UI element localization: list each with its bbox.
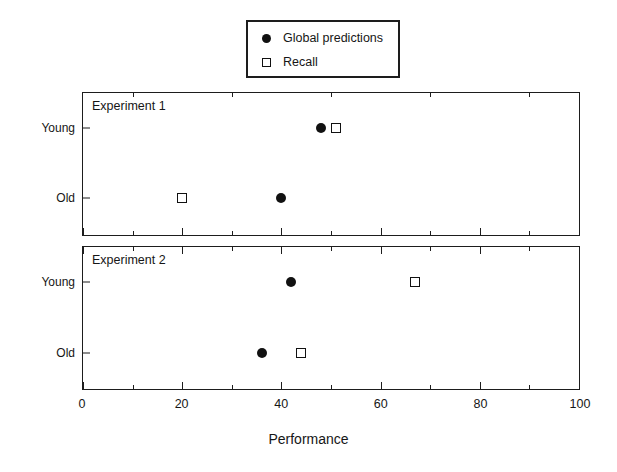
legend-label: Global predictions <box>283 32 383 45</box>
filled-circle-icon <box>258 34 274 43</box>
x-axis-title: Performance <box>0 432 617 446</box>
x-tick-top <box>480 382 481 389</box>
x-tick-bottom <box>381 247 382 254</box>
x-tick-top <box>480 228 481 235</box>
x-tick-top <box>83 382 84 389</box>
x-tick-bottom <box>281 247 282 254</box>
x-tick-top <box>430 231 431 235</box>
x-tick-bottom <box>182 247 183 254</box>
x-tick-bottom <box>331 247 332 251</box>
x-tick-top <box>331 231 332 235</box>
x-tick-top <box>281 228 282 235</box>
data-point-global-predictions-old <box>276 193 286 203</box>
data-point-recall-young <box>410 277 420 287</box>
panel-experiment-1: Experiment 1 Young Old <box>82 92 580 236</box>
x-tick-top <box>83 228 84 235</box>
x-tick-bottom <box>232 93 233 97</box>
x-tick-top <box>381 228 382 235</box>
x-tick-top <box>232 385 233 389</box>
x-tick-label: 20 <box>175 398 189 411</box>
x-tick-top <box>133 385 134 389</box>
x-tick-top <box>331 385 332 389</box>
panel-title: Experiment 2 <box>92 254 166 267</box>
x-tick-top <box>232 231 233 235</box>
x-tick-bottom <box>430 247 431 251</box>
x-tick-bottom <box>331 93 332 97</box>
y-tick-label-old: Old <box>56 347 75 359</box>
legend: Global predictions Recall <box>246 20 400 78</box>
x-tick-bottom <box>579 247 580 254</box>
data-point-recall-old <box>296 348 306 358</box>
x-tick-top <box>182 228 183 235</box>
y-tick-mark-old <box>83 353 90 354</box>
x-tick-top <box>529 231 530 235</box>
legend-item-recall: Recall <box>258 52 318 72</box>
x-tick-label: 40 <box>274 398 288 411</box>
x-tick-top <box>133 231 134 235</box>
data-point-global-predictions-old <box>257 348 267 358</box>
legend-label: Recall <box>283 56 318 69</box>
performance-scatter-figure: Global predictions Recall Experiment 1 Y… <box>0 0 617 472</box>
x-tick-bottom <box>529 93 530 97</box>
panel-experiment-2: Experiment 2 Young Old <box>82 246 580 390</box>
x-tick-label: 60 <box>374 398 388 411</box>
x-tick-bottom <box>529 247 530 251</box>
x-tick-top <box>381 382 382 389</box>
data-point-recall-young <box>331 123 341 133</box>
y-tick-mark-young <box>83 282 90 283</box>
panel-title: Experiment 1 <box>92 100 166 113</box>
data-point-recall-old <box>177 193 187 203</box>
x-tick-bottom <box>133 93 134 97</box>
y-tick-mark-old <box>83 198 90 199</box>
x-tick-label: 80 <box>473 398 487 411</box>
y-tick-label-young: Young <box>41 122 75 134</box>
x-tick-top <box>281 382 282 389</box>
data-point-global-predictions-young <box>286 277 296 287</box>
x-tick-label: 0 <box>79 398 86 411</box>
x-tick-top <box>182 382 183 389</box>
y-tick-mark-young <box>83 128 90 129</box>
x-tick-bottom <box>83 247 84 254</box>
legend-item-global-predictions: Global predictions <box>258 28 383 48</box>
x-tick-top <box>529 385 530 389</box>
x-tick-bottom <box>430 93 431 97</box>
data-point-global-predictions-young <box>316 123 326 133</box>
x-tick-bottom <box>480 247 481 254</box>
x-tick-bottom <box>133 247 134 251</box>
x-tick-top <box>430 385 431 389</box>
open-square-icon <box>258 58 274 67</box>
y-tick-label-old: Old <box>56 192 75 204</box>
y-tick-label-young: Young <box>41 276 75 288</box>
x-tick-bottom <box>232 247 233 251</box>
x-tick-label: 100 <box>570 398 591 411</box>
